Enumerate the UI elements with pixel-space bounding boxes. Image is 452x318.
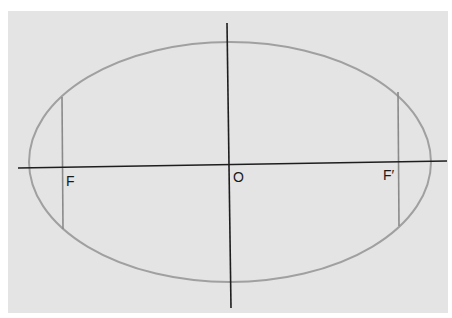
center-label: O <box>233 169 244 185</box>
left-focus-label: F <box>66 173 75 189</box>
latus-rectum-right <box>398 92 399 226</box>
ellipse-diagram: F O F′ <box>0 0 452 318</box>
minor-axis <box>227 23 231 308</box>
right-focus-label: F′ <box>383 167 395 183</box>
latus-rectum-left <box>62 97 63 229</box>
